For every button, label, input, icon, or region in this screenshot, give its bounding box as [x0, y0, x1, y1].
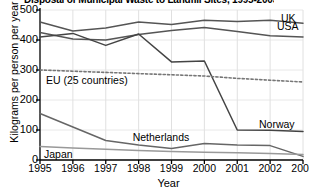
series-label-eu-25-countries: EU (25 countries): [46, 74, 128, 86]
x-tick-label: 2003: [286, 162, 309, 174]
chart-container: Disposal of Municipal Waste to Landfill …: [0, 0, 309, 194]
series-label-japan: Japan: [44, 148, 73, 160]
x-axis-label-text: Year: [129, 177, 179, 189]
series-label-norway: Norway: [259, 118, 295, 130]
series-label-netherlands: Netherlands: [133, 131, 190, 143]
x-tick-label: 2000: [187, 162, 221, 174]
series-label-usa: USA: [277, 20, 299, 32]
x-axis-label: Year: [0, 177, 309, 189]
x-tick-label: 1996: [56, 162, 90, 174]
x-tick-label: 1995: [23, 162, 57, 174]
x-tick-label: 1999: [155, 162, 189, 174]
x-tick-label: 1998: [122, 162, 156, 174]
x-tick-label: 2001: [220, 162, 254, 174]
x-tick-label: 2002: [253, 162, 287, 174]
x-tick-label: 1997: [89, 162, 123, 174]
